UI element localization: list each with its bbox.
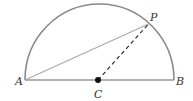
semicircle-diagram: A B C P [0, 0, 193, 101]
center-point-C [95, 77, 101, 83]
chord-AP [25, 24, 149, 80]
label-C: C [94, 88, 103, 101]
radius-CP [98, 24, 149, 80]
label-A: A [14, 75, 23, 88]
label-P: P [149, 11, 158, 24]
label-B: B [175, 75, 184, 88]
